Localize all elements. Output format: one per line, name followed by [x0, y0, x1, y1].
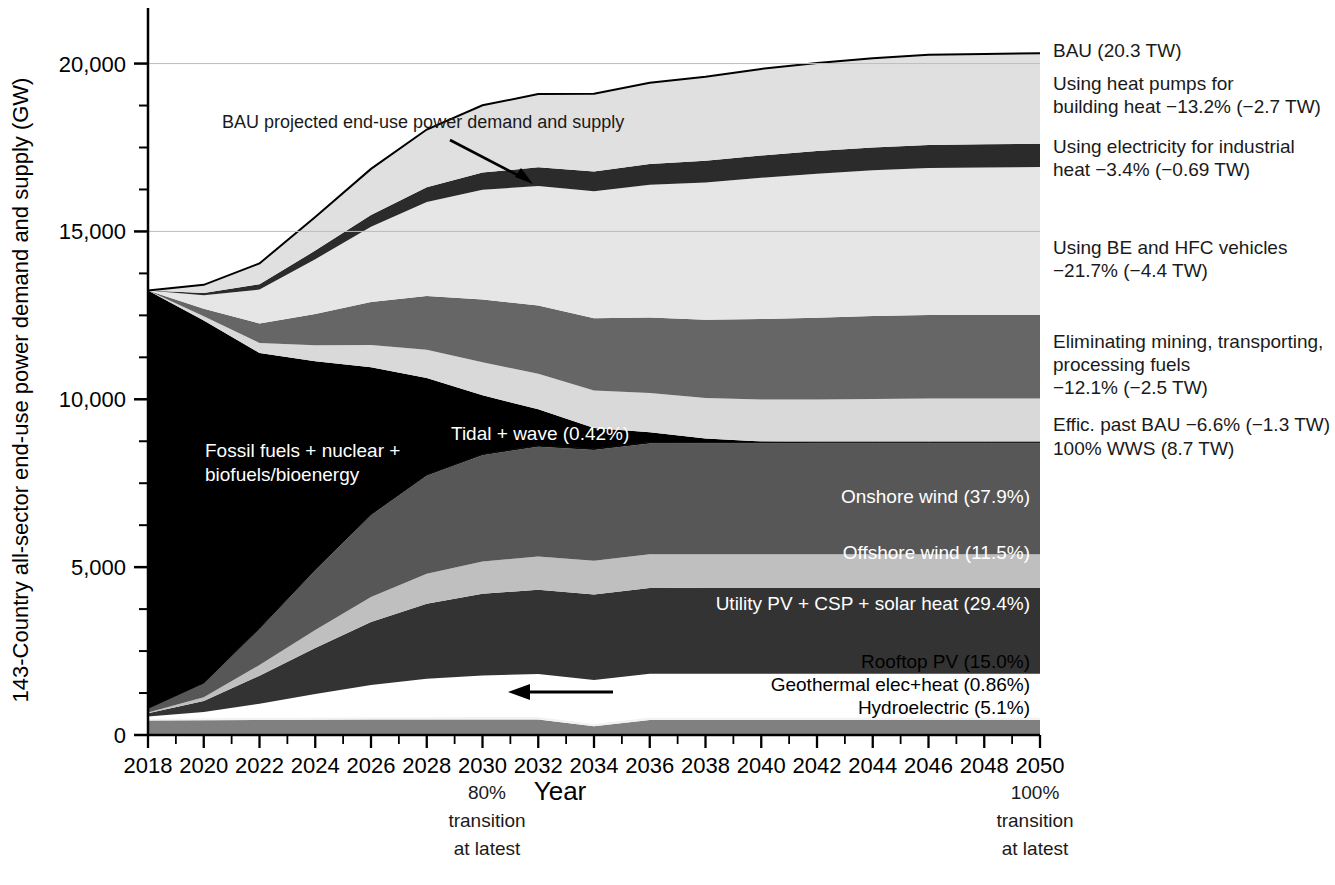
label-offshore-wind: Offshore wind (11.5%)	[843, 542, 1030, 563]
label-utility-pv: Utility PV + CSP + solar heat (29.4%)	[716, 593, 1030, 614]
right-label-bau: BAU (20.3 TW)	[1053, 40, 1181, 61]
right-label-wws: 100% WWS (8.7 TW)	[1053, 438, 1234, 459]
x-tick-label-2038: 2038	[681, 753, 730, 778]
right-label-vehicles-2: −21.7% (−4.4 TW)	[1053, 260, 1208, 281]
x-tick-label-2034: 2034	[570, 753, 619, 778]
right-label-heat-pumps-2: building heat −13.2% (−2.7 TW)	[1053, 96, 1321, 117]
x-tick-label-2032: 2032	[514, 753, 563, 778]
right-label-mining-3: −12.1% (−2.5 TW)	[1053, 377, 1208, 398]
x-tick-labels: 2018202020222024202620282030203220342036…	[124, 753, 1065, 778]
note-80-line2: transition	[448, 810, 525, 831]
x-tick-label-2028: 2028	[402, 753, 451, 778]
y-tick-label: 0	[114, 723, 126, 748]
note-80-line1: 80%	[468, 782, 506, 803]
note-80-line3: at latest	[454, 838, 521, 859]
label-fossil-line1: Fossil fuels + nuclear +	[205, 440, 400, 461]
x-tick-label-2022: 2022	[235, 753, 284, 778]
bau-annotation-text: BAU projected end-use power demand and s…	[222, 112, 624, 132]
note-100-line1: 100%	[1011, 782, 1060, 803]
right-label-effic: Effic. past BAU −6.6% (−1.3 TW)	[1053, 414, 1330, 435]
y-tick-label: 15,000	[59, 219, 126, 244]
label-onshore-wind: Onshore wind (37.9%)	[841, 486, 1030, 507]
y-tick-label: 10,000	[59, 387, 126, 412]
power-demand-supply-area-chart: 05,00010,00015,00020,000 201820202022202…	[0, 0, 1335, 885]
right-label-vehicles-1: Using BE and HFC vehicles	[1053, 237, 1287, 258]
x-tick-label-2030: 2030	[458, 753, 507, 778]
y-axis-title: 143-Country all-sector end-use power dem…	[8, 78, 33, 703]
chart-page: 05,00010,00015,00020,000 201820202022202…	[0, 0, 1335, 885]
x-tick-label-2048: 2048	[960, 753, 1009, 778]
note-100-line3: at latest	[1002, 838, 1069, 859]
right-label-industrial-heat-2: heat −3.4% (−0.69 TW)	[1053, 159, 1250, 180]
x-tick-label-2020: 2020	[179, 753, 228, 778]
x-tick-label-2046: 2046	[904, 753, 953, 778]
x-tick-label-2044: 2044	[848, 753, 897, 778]
x-tick-label-2040: 2040	[737, 753, 786, 778]
x-tick-label-2036: 2036	[625, 753, 674, 778]
y-tick-label: 20,000	[59, 52, 126, 77]
x-axis-title: Year	[534, 776, 587, 806]
x-tick-label-2018: 2018	[124, 753, 173, 778]
note-100-line2: transition	[996, 810, 1073, 831]
x-tick-label-2050: 2050	[1016, 753, 1065, 778]
label-rooftop-pv: Rooftop PV (15.0%)	[861, 651, 1030, 672]
x-tick-label-2042: 2042	[793, 753, 842, 778]
x-tick-label-2024: 2024	[291, 753, 340, 778]
label-geothermal: Geothermal elec+heat (0.86%)	[771, 674, 1030, 695]
label-fossil-line2: biofuels/bioenergy	[205, 464, 360, 485]
right-label-heat-pumps-1: Using heat pumps for	[1053, 73, 1234, 94]
x-tick-label-2026: 2026	[347, 753, 396, 778]
right-label-mining-1: Eliminating mining, transporting,	[1053, 331, 1323, 352]
label-hydroelectric: Hydroelectric (5.1%)	[858, 697, 1030, 718]
right-label-industrial-heat-1: Using electricity for industrial	[1053, 136, 1295, 157]
label-tidal-wave: Tidal + wave (0.42%)	[451, 423, 629, 444]
right-label-mining-2: processing fuels	[1053, 354, 1190, 375]
y-tick-label: 5,000	[71, 555, 126, 580]
